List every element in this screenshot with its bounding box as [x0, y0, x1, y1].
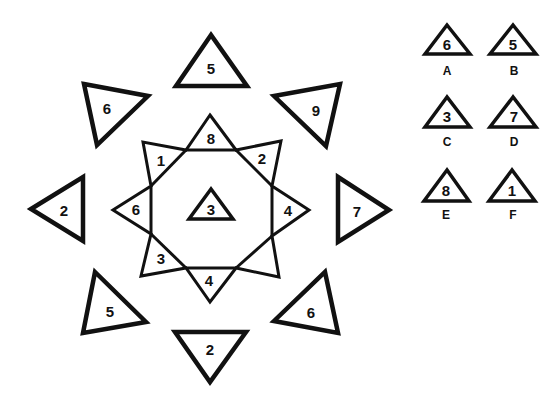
outer-triangle-top-left-value: 6: [103, 100, 111, 117]
option-b[interactable]: 5 B: [490, 25, 536, 78]
outer-triangle-bottom-right: 6: [274, 272, 338, 333]
outer-triangle-bottom-right-value: 6: [307, 304, 315, 321]
outer-triangle-left: 2: [31, 177, 83, 241]
center-triangle-value: 3: [207, 201, 215, 218]
puzzle-figure: 5 6 9 2 7 5 6 2 8 2 4: [0, 0, 560, 399]
star-point-bottom-value: 4: [205, 272, 214, 289]
outer-triangle-top-value: 5: [207, 60, 215, 77]
outer-triangle-bottom: 2: [175, 332, 246, 382]
star-point-top-right-value: 2: [258, 150, 266, 167]
option-c[interactable]: 3 C: [425, 97, 470, 149]
outer-triangle-bottom-value: 2: [206, 341, 214, 358]
option-e[interactable]: 8 E: [424, 170, 469, 222]
option-a[interactable]: 6 A: [425, 25, 470, 78]
option-b-value: 5: [509, 36, 517, 53]
outer-triangle-bottom-left-value: 5: [106, 303, 114, 320]
star-point-top-left-value: 1: [157, 152, 165, 169]
outer-triangle-right-value: 7: [353, 203, 361, 220]
option-f-value: 1: [508, 182, 516, 199]
star-point-top-value: 8: [207, 130, 215, 147]
outer-triangle-right: 7: [338, 177, 389, 242]
option-c-label: C: [443, 135, 452, 149]
star-point-left-value: 6: [132, 201, 140, 218]
option-e-value: 8: [442, 182, 450, 199]
outer-triangle-top: 5: [176, 35, 247, 86]
option-a-label: A: [443, 64, 452, 78]
option-c-value: 3: [443, 108, 451, 125]
star-point-right-value: 4: [284, 202, 293, 219]
center-triangle: 3: [189, 189, 233, 219]
option-f[interactable]: 1 F: [489, 170, 535, 222]
option-a-value: 6: [443, 36, 451, 53]
outer-triangle-top-right: 9: [274, 84, 340, 146]
outer-triangle-left-value: 2: [60, 202, 68, 219]
option-d-value: 7: [510, 108, 518, 125]
outer-triangle-top-right-value: 9: [312, 102, 320, 119]
option-e-label: E: [442, 208, 450, 222]
option-b-label: B: [510, 64, 519, 78]
star-point-bottom-left-value: 3: [157, 250, 165, 267]
option-f-label: F: [509, 208, 516, 222]
option-d[interactable]: 7 D: [490, 97, 536, 149]
outer-triangle-bottom-left: 5: [83, 272, 146, 333]
outer-triangle-top-left: 6: [84, 84, 148, 145]
option-d-label: D: [510, 135, 519, 149]
